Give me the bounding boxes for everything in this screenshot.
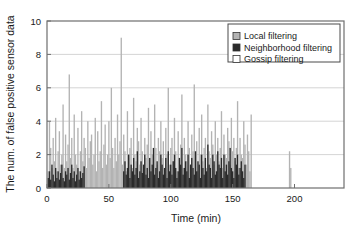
x-tick-label-50: 50 — [104, 193, 115, 204]
bar — [211, 178, 212, 188]
bar — [190, 165, 191, 188]
y-tick-label-2: 2 — [36, 149, 41, 160]
bar — [150, 171, 151, 188]
bar — [104, 125, 105, 188]
y-axis-title: The num. of false positive sensor data — [4, 15, 16, 193]
bar — [81, 178, 82, 188]
bar — [169, 171, 170, 188]
bar — [223, 155, 224, 188]
bar — [210, 168, 211, 188]
bar — [152, 165, 153, 188]
bar — [155, 168, 156, 188]
bar — [137, 151, 138, 188]
bar — [248, 151, 249, 188]
bar — [205, 158, 206, 188]
bar — [231, 168, 232, 188]
chart-legend: Local filteringNeighborhood filteringGos… — [228, 24, 340, 64]
bar — [149, 158, 150, 188]
bar — [186, 171, 187, 188]
bar — [77, 168, 78, 188]
bar — [148, 178, 149, 188]
bar — [153, 148, 154, 188]
x-tick-label-0: 0 — [44, 193, 49, 204]
bar — [49, 171, 50, 188]
bar — [108, 121, 109, 188]
bar — [239, 168, 240, 188]
bar — [93, 155, 94, 188]
chart-figure: 0246810 050100150200 Time (min) The num.… — [0, 0, 359, 234]
bar — [100, 151, 101, 188]
bar — [53, 175, 54, 188]
bar — [92, 165, 93, 188]
bar — [85, 148, 86, 188]
bar — [165, 158, 166, 188]
bar — [156, 161, 157, 188]
bar — [215, 175, 216, 188]
bar — [244, 165, 245, 188]
bar — [166, 178, 167, 188]
bar — [140, 161, 141, 188]
bar — [213, 161, 214, 188]
bar — [200, 178, 201, 188]
bar — [130, 165, 131, 188]
bar — [197, 161, 198, 188]
bar — [196, 171, 197, 188]
bar — [69, 74, 70, 188]
bar — [109, 158, 110, 188]
bar — [237, 155, 238, 188]
bar — [66, 175, 67, 188]
bar — [114, 138, 115, 188]
bar — [56, 178, 57, 188]
bar — [79, 180, 80, 188]
bar — [48, 178, 49, 188]
bar — [220, 168, 221, 188]
legend-label-1: Neighborhood filtering — [244, 43, 332, 53]
bar — [112, 148, 113, 188]
bar — [59, 180, 60, 188]
bar — [111, 88, 112, 188]
bar — [50, 180, 51, 188]
bar — [238, 175, 239, 188]
bar — [87, 121, 88, 188]
bar — [173, 161, 174, 188]
bar — [171, 175, 172, 188]
bar — [247, 135, 248, 188]
bar — [80, 171, 81, 188]
bar — [242, 171, 243, 188]
legend-swatch-2 — [233, 56, 240, 63]
bar — [147, 168, 148, 188]
bar — [88, 158, 89, 188]
bar — [139, 171, 140, 188]
bar — [241, 161, 242, 188]
bar — [117, 115, 118, 188]
bar — [191, 158, 192, 188]
false-positive-sensor-data-chart: 0246810 050100150200 Time (min) The num.… — [0, 0, 359, 234]
bar — [185, 161, 186, 188]
bar — [62, 178, 63, 188]
bar — [59, 131, 60, 188]
bar — [128, 155, 129, 188]
bar — [181, 148, 182, 188]
bar — [95, 118, 96, 188]
bar — [199, 165, 200, 188]
bar — [101, 101, 102, 188]
y-tick-label-6: 6 — [36, 82, 41, 93]
bar — [143, 165, 144, 188]
bar — [160, 155, 161, 188]
bar — [54, 181, 55, 188]
bar — [124, 161, 125, 188]
y-tick-label-4: 4 — [36, 116, 41, 127]
x-axis-title: Time (min) — [171, 212, 221, 224]
bar — [113, 168, 114, 188]
bar — [228, 161, 229, 188]
bar — [178, 171, 179, 188]
bar — [187, 155, 188, 188]
bar — [61, 165, 62, 188]
bar — [55, 168, 56, 188]
bar — [222, 178, 223, 188]
bar — [180, 165, 181, 188]
y-tick-label-0: 0 — [36, 183, 41, 194]
bar — [229, 148, 230, 188]
bar — [90, 141, 91, 188]
bar — [236, 165, 237, 188]
